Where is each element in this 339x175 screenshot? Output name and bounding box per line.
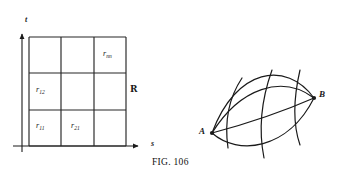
- figure-caption: FIG. 106: [152, 157, 189, 167]
- node-a-dot: [210, 131, 214, 135]
- node-b-dot: [312, 96, 316, 100]
- transverse-curve-2: [261, 70, 272, 158]
- cell-label-rnn-sub: nn: [106, 53, 112, 59]
- cell-label-r12-sub: 12: [39, 89, 45, 95]
- cell-label-r21-sub: 21: [74, 125, 80, 131]
- lens-net-group: [212, 70, 314, 158]
- cell-label-r11: r11: [36, 122, 45, 130]
- figure-drawing-canvas: [0, 0, 339, 175]
- region-label-r: R: [130, 85, 137, 94]
- cell-label-r12: r12: [36, 86, 45, 94]
- cell-label-r21: r21: [71, 122, 80, 130]
- cell-label-r11-sub: 11: [39, 125, 45, 131]
- cell-label-rnn: rnn: [103, 50, 112, 58]
- axes-group: [13, 34, 138, 152]
- node-label-a: A: [199, 127, 205, 136]
- figure-106-container: t s R r11 r21 r12 rnn A B FIG. 106: [0, 0, 339, 175]
- node-label-b: B: [319, 90, 325, 99]
- axis-label-s: s: [151, 140, 154, 148]
- axis-label-t: t: [25, 16, 27, 24]
